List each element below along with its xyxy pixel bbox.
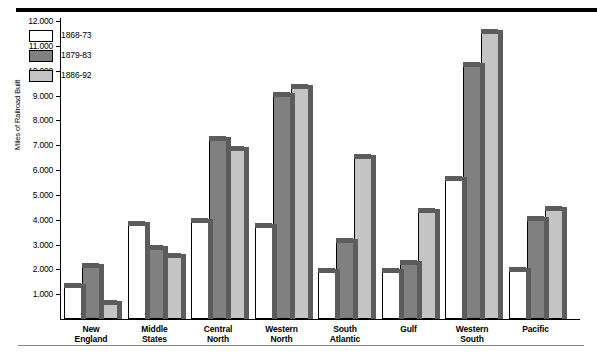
bar (128, 225, 146, 319)
bar-side-face (81, 284, 86, 319)
bar-top-face (418, 208, 435, 213)
bar (191, 222, 209, 319)
legend-label-1868-73: 1868-73 (61, 31, 92, 40)
bar-side-face (226, 137, 231, 319)
y-axis-tick-label: 5.000 (33, 191, 53, 200)
y-axis-tick (56, 269, 60, 270)
y-axis-title: Miles of Railroad Built (14, 80, 22, 150)
bar-group (318, 17, 372, 319)
y-axis-tick-label: 3.000 (33, 241, 53, 250)
bar-top-face (255, 223, 272, 228)
legend-label-1886-92: 1886-92 (61, 71, 92, 80)
bar-top-face (318, 268, 335, 273)
y-axis-tick (56, 120, 60, 121)
bar-top-face (191, 218, 208, 223)
bar-side-face (353, 239, 358, 319)
bar-top-face (128, 221, 145, 226)
bar-side-face (117, 301, 122, 319)
bar-side-face (181, 254, 186, 319)
bar-group (128, 17, 182, 319)
x-axis-line (60, 319, 580, 320)
y-axis-tick-label: 9.000 (33, 92, 53, 101)
bar-side-face (272, 224, 277, 319)
bar-side-face (308, 85, 313, 319)
bar-top-face (382, 268, 399, 273)
legend-swatch-1879-83 (29, 50, 53, 62)
bar-side-face (462, 177, 467, 319)
bar-side-face (417, 261, 422, 319)
bar-group (191, 17, 245, 319)
category-label-line: Pacific (497, 325, 575, 335)
bar-side-face (244, 147, 249, 319)
bar-side-face (145, 222, 150, 319)
category-label-line: Atlantic (306, 335, 384, 345)
legend-swatch-1868-73 (29, 30, 53, 42)
bar (382, 272, 400, 319)
y-axis-tick-label: 12.000 (28, 17, 53, 26)
bar-side-face (399, 269, 404, 319)
bar-top-face (336, 238, 353, 243)
legend-item: 1886-92 (29, 69, 92, 82)
y-axis-tick-label: 2.000 (33, 265, 53, 274)
legend-item: 1868-73 (29, 29, 92, 42)
y-axis-tick (56, 96, 60, 97)
bar (64, 287, 82, 319)
bar-side-face (208, 219, 213, 319)
bar-side-face (371, 155, 376, 319)
bar-side-face (335, 269, 340, 319)
bar-top-face (445, 176, 462, 181)
bar-group (509, 17, 563, 319)
bar-group (445, 17, 499, 319)
bar-side-face (163, 246, 168, 319)
bar-side-face (544, 217, 549, 319)
category-label-line: South (433, 335, 511, 345)
legend-label-1879-83: 1879-83 (61, 51, 92, 60)
legend-swatch-1886-92 (29, 70, 53, 82)
bar-top-face (545, 206, 562, 211)
y-axis-tick (56, 145, 60, 146)
y-axis-tick (56, 245, 60, 246)
bar-side-face (562, 207, 567, 319)
plot-area: 12.00011.00010.0009.0008.0007.0006.0005.… (60, 18, 580, 320)
y-axis-tick (56, 195, 60, 196)
bar-top-face (209, 136, 226, 141)
y-axis-tick-label: 6.000 (33, 166, 53, 175)
y-axis-tick-label: 8.000 (33, 116, 53, 125)
bar-side-face (290, 93, 295, 320)
bar-group (255, 17, 309, 319)
bar (445, 180, 463, 319)
bar-group (382, 17, 436, 319)
bar-top-face (481, 29, 498, 34)
bar (255, 227, 273, 319)
y-axis-tick-label: 1.000 (33, 290, 53, 299)
bar-top-face (509, 267, 526, 272)
bar-top-face (273, 92, 290, 97)
y-axis-tick-label: 7.000 (33, 141, 53, 150)
y-axis-tick-label: 4.000 (33, 216, 53, 225)
bar-top-face (291, 84, 308, 89)
bar-side-face (498, 30, 503, 319)
bar-top-face (400, 260, 417, 265)
bar (509, 271, 527, 319)
bar-top-face (527, 216, 544, 221)
y-axis-tick (56, 21, 60, 22)
railroad-bar-chart-figure: 12.00011.00010.0009.0008.0007.0006.0005.… (0, 0, 597, 355)
y-axis-tick (56, 220, 60, 221)
footer-rule (18, 345, 584, 346)
bar-top-face (82, 263, 99, 268)
bar-side-face (480, 63, 485, 319)
bar (318, 272, 336, 319)
y-axis-tick (56, 294, 60, 295)
bar-top-face (64, 283, 81, 288)
header-rule-thin (16, 11, 597, 12)
bar-side-face (526, 268, 531, 319)
bar-top-face (354, 154, 371, 159)
bar-side-face (99, 264, 104, 319)
y-axis-tick (56, 170, 60, 171)
x-axis-category-label: Pacific (497, 325, 575, 335)
legend-item: 1879-83 (29, 49, 92, 62)
chart-legend: 1868-73 1879-83 1886-92 (29, 29, 92, 89)
bar-side-face (435, 209, 440, 319)
bar-top-face (463, 62, 480, 67)
